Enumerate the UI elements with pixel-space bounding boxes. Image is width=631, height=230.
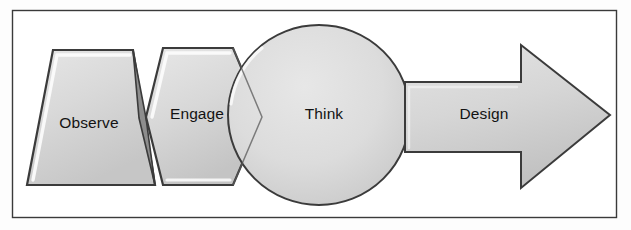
process-diagram: Observe Engage Think (0, 0, 631, 230)
diagram-canvas: Observe Engage Think (0, 0, 631, 230)
